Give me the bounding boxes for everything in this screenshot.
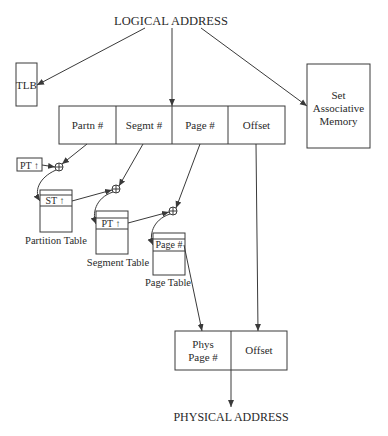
logical-address-box: Partn # Segmt # Page # Offset: [59, 106, 285, 144]
adder-2: [112, 185, 120, 193]
set-associative-memory-box: Set Associative Memory: [307, 64, 370, 148]
arrow-page-to-phys: [184, 245, 202, 331]
phys-field-line1: Phys: [192, 338, 213, 350]
sam-line1: Set: [331, 89, 345, 101]
pt-pointer-label: PT ↑: [20, 160, 39, 171]
field-page: Page #: [185, 119, 215, 131]
pt-pointer-box: PT ↑: [17, 158, 42, 171]
arrow-page-to-adder3: [176, 144, 200, 208]
physical-address-box: Phys Page # Offset: [175, 331, 287, 370]
segment-table-caption: Segment Table: [87, 257, 150, 268]
partition-table: ST ↑ Partition Table: [25, 190, 87, 246]
arrow-to-set-assoc: [201, 28, 307, 106]
physical-address-label: PHYSICAL ADDRESS: [173, 410, 288, 424]
tlb-box: TLB: [16, 63, 37, 106]
arrow-pt-to-adder1: [42, 165, 55, 167]
arrow-partn-to-adder1: [62, 144, 87, 164]
tlb-label: TLB: [16, 79, 37, 91]
field-partn: Partn #: [72, 119, 104, 131]
segment-entry: PT ↑: [102, 218, 121, 229]
arrow-offset-to-offset: [256, 144, 258, 331]
arrow-segmt-to-adder2: [119, 144, 143, 186]
logical-address-title: LOGICAL ADDRESS: [114, 14, 228, 28]
phys-field-line2: Page #: [188, 351, 218, 363]
field-offset: Offset: [243, 119, 270, 131]
page-entry: Page #: [156, 239, 183, 250]
phys-field-offset: Offset: [245, 344, 272, 356]
field-segmt: Segmt #: [126, 119, 163, 131]
adder-3: [169, 207, 177, 215]
sam-line2: Associative: [313, 102, 364, 114]
sam-line3: Memory: [320, 115, 358, 127]
adder-1: [55, 163, 63, 171]
partition-entry: ST ↑: [46, 195, 65, 206]
page-table-caption: Page Table: [145, 277, 191, 288]
partition-table-caption: Partition Table: [25, 235, 87, 246]
arrow-to-tlb: [37, 28, 145, 85]
address-translation-diagram: LOGICAL ADDRESS TLB Set Associative Memo…: [0, 0, 388, 436]
